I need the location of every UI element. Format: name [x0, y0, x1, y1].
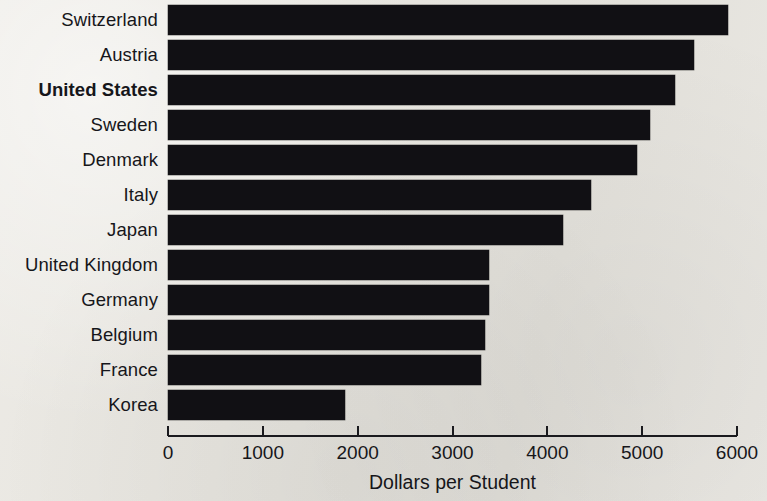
x-axis-tick-label: 2000: [318, 443, 398, 462]
x-axis-tick: [736, 426, 738, 436]
x-axis-tick-label: 6000: [697, 443, 767, 462]
category-label: Italy: [0, 186, 158, 205]
bar: [168, 215, 563, 245]
x-axis-tick-label: 4000: [507, 443, 587, 462]
bar: [168, 250, 489, 280]
bar: [168, 40, 694, 70]
category-label: Korea: [0, 396, 158, 415]
bar: [168, 5, 728, 35]
x-axis-tick-label: 3000: [413, 443, 493, 462]
bar: [168, 355, 481, 385]
x-axis-tick-label: 5000: [602, 443, 682, 462]
category-label: Denmark: [0, 151, 158, 170]
bar: [168, 180, 591, 210]
x-axis-title: Dollars per Student: [168, 473, 737, 493]
x-axis-tick: [262, 426, 264, 436]
category-label: Belgium: [0, 326, 158, 345]
category-label: Austria: [0, 46, 158, 65]
category-label: Germany: [0, 291, 158, 310]
bar: [168, 320, 485, 350]
category-label: Switzerland: [0, 11, 158, 30]
x-axis-tick-label: 1000: [223, 443, 303, 462]
category-label: France: [0, 361, 158, 380]
category-label: United States: [0, 81, 158, 100]
category-label: United Kingdom: [0, 256, 158, 275]
x-axis-tick-label: 0: [128, 443, 208, 462]
x-axis-tick: [452, 426, 454, 436]
category-label: Japan: [0, 221, 158, 240]
bar: [168, 285, 489, 315]
bar: [168, 75, 675, 105]
x-axis-tick: [641, 426, 643, 436]
bar: [168, 390, 345, 420]
x-axis-tick: [546, 426, 548, 436]
x-axis-tick: [357, 426, 359, 436]
bar: [168, 145, 637, 175]
bar: [168, 110, 650, 140]
category-label: Sweden: [0, 116, 158, 135]
bar-chart: SwitzerlandAustriaUnited StatesSwedenDen…: [0, 0, 767, 501]
x-axis-tick: [167, 426, 169, 436]
